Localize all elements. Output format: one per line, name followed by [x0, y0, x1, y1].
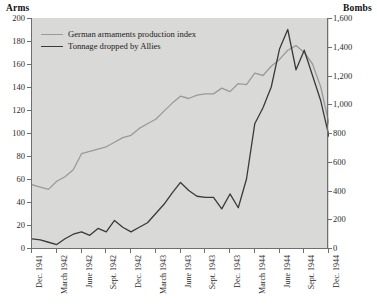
series-line-german-armaments-production-index: [32, 46, 329, 190]
left-axis-title: Arms: [6, 3, 30, 13]
legend: German armaments production index Tonnag…: [41, 28, 196, 52]
x-tick-mark: [204, 249, 205, 253]
legend-swatch-icon-bombs: [41, 46, 63, 47]
x-tick-mark: [130, 249, 131, 253]
left-tick-label: 160: [12, 59, 25, 69]
x-tick-label: Dec. 1942: [134, 255, 143, 288]
x-tick-mark: [303, 249, 304, 253]
x-tick-label: March 1943: [159, 255, 168, 294]
right-tick-mark: [328, 104, 332, 105]
series-line-tonnage-dropped-by-allies: [32, 30, 329, 245]
right-tick-mark: [328, 47, 332, 48]
left-tick-mark: [27, 110, 31, 111]
left-tick-label: 0: [21, 243, 25, 253]
x-tick-mark: [105, 249, 106, 253]
left-tick-label: 20: [17, 220, 26, 230]
left-tick-mark: [27, 202, 31, 203]
left-tick-mark: [27, 41, 31, 42]
left-tick-label: 40: [17, 197, 26, 207]
left-tick-mark: [27, 225, 31, 226]
x-tick-mark: [254, 249, 255, 253]
x-tick-mark: [31, 249, 32, 253]
x-tick-mark: [328, 249, 329, 253]
legend-item-bombs: Tonnage dropped by Allies: [41, 40, 196, 52]
right-tick-label: 600: [333, 157, 346, 167]
left-tick-label: 60: [17, 174, 26, 184]
legend-item-arms: German armaments production index: [41, 28, 196, 40]
x-tick-label: Sept. 1944: [307, 255, 316, 289]
left-tick-mark: [27, 133, 31, 134]
right-tick-label: 1,400: [333, 42, 352, 52]
x-tick-label: Sept. 1942: [109, 255, 118, 289]
left-tick-mark: [27, 156, 31, 157]
right-tick-label: 800: [333, 128, 346, 138]
right-tick-label: 1,600: [333, 13, 352, 23]
x-tick-label: Dec. 1943: [233, 255, 242, 288]
legend-swatch-icon-arms: [41, 34, 63, 35]
right-tick-mark: [328, 191, 332, 192]
left-tick-label: 80: [17, 151, 26, 161]
right-tick-mark: [328, 162, 332, 163]
right-tick-mark: [328, 219, 332, 220]
left-tick-label: 100: [12, 128, 25, 138]
x-tick-label: June 1944: [283, 255, 292, 288]
x-tick-label: Dec. 1941: [35, 255, 44, 288]
x-tick-mark: [155, 249, 156, 253]
x-tick-label: March 1942: [60, 255, 69, 294]
right-tick-label: 400: [333, 186, 346, 196]
right-tick-label: 200: [333, 214, 346, 224]
legend-label-arms: German armaments production index: [68, 29, 196, 39]
plot-area: [31, 18, 329, 248]
legend-label-bombs: Tonnage dropped by Allies: [68, 41, 161, 51]
x-tick-mark: [81, 249, 82, 253]
left-tick-label: 140: [12, 82, 25, 92]
x-tick-label: Sept. 1943: [208, 255, 217, 289]
left-tick-mark: [27, 18, 31, 19]
left-tick-label: 180: [12, 36, 25, 46]
right-tick-label: 0: [333, 243, 337, 253]
x-tick-mark: [180, 249, 181, 253]
right-tick-mark: [328, 76, 332, 77]
left-tick-mark: [27, 87, 31, 88]
x-tick-mark: [279, 249, 280, 253]
right-tick-label: 1,000: [333, 99, 352, 109]
right-tick-label: 1,200: [333, 71, 352, 81]
x-tick-mark: [229, 249, 230, 253]
x-tick-label: June 1943: [184, 255, 193, 288]
left-tick-mark: [27, 179, 31, 180]
dual-axis-line-chart: Arms Bombs 020406080100120140160180200 0…: [0, 0, 377, 308]
x-tick-label: June 1942: [85, 255, 94, 288]
x-tick-label: March 1944: [258, 255, 267, 294]
x-tick-mark: [56, 249, 57, 253]
left-tick-mark: [27, 64, 31, 65]
left-tick-label: 120: [12, 105, 25, 115]
left-tick-label: 200: [12, 13, 25, 23]
left-axis-line: [31, 18, 32, 249]
right-axis-title: Bombs: [343, 3, 372, 13]
series-canvas: [32, 18, 329, 248]
right-tick-mark: [328, 133, 332, 134]
right-tick-mark: [328, 18, 332, 19]
x-tick-label: Dec. 1944: [332, 255, 341, 288]
